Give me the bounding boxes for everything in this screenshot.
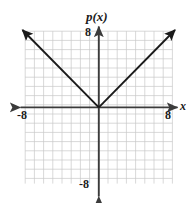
x-axis-tick-right: 8 — [165, 109, 171, 121]
coordinate-plane — [0, 0, 192, 203]
x-axis-label: x — [180, 100, 186, 112]
y-axis-tick-bottom: -8 — [79, 178, 89, 190]
graph-figure: p(x) x 8 -8 -8 8 — [0, 0, 192, 203]
x-axis-tick-left: -8 — [17, 109, 27, 121]
function-label: p(x) — [86, 10, 108, 23]
y-axis-tick-top: 8 — [85, 26, 91, 38]
